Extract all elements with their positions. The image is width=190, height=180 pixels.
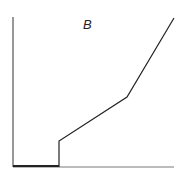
chart-plot (0, 0, 190, 180)
panel-label: B (83, 17, 92, 32)
series-line (13, 18, 174, 167)
